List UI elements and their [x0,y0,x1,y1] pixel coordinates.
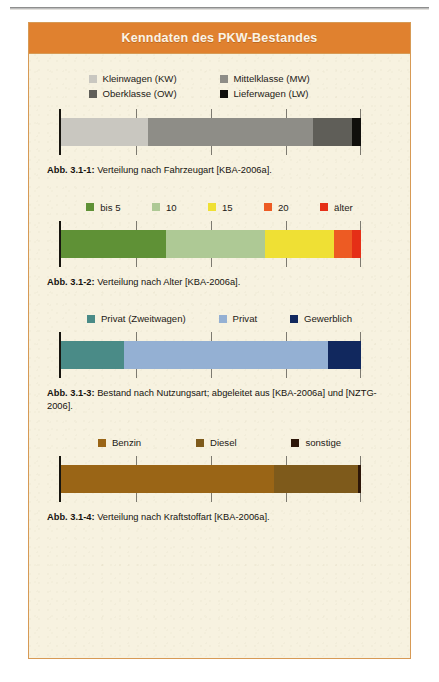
tick [286,221,287,230]
box-title-bar: Kenndaten des PKW-Bestandes [29,23,410,54]
bar-segment-diesel [274,465,358,493]
tick [211,146,212,155]
tick [211,221,212,230]
legend-swatch-icon [219,315,227,323]
bar-segment-bis-5 [61,230,166,258]
legend-label: Gewerblich [304,312,352,325]
legend-abb-3-1-4: Benzin Diesel sonstige [71,436,369,449]
legend-item: älter [320,201,353,214]
tick [136,493,137,502]
tick [360,369,361,378]
legend-swatch-icon [89,75,97,83]
tick [211,493,212,502]
legend-label: Lieferwagen (LW) [234,87,309,100]
tick [136,109,137,118]
legend-item: 10 [152,201,177,214]
legend-label: sonstige [305,436,341,449]
figures-container: Kleinwagen (KW) Mittelklasse (MW) Oberkl… [29,54,410,524]
tick [136,221,137,230]
legend-item: Gewerblich [290,312,352,325]
axis-area [59,332,363,378]
figure-abb-3-1-1: Kleinwagen (KW) Mittelklasse (MW) Oberkl… [45,54,394,177]
stacked-bar [61,465,361,493]
tick [286,146,287,155]
legend-label: Kleinwagen (KW) [103,72,177,85]
stacked-bar [61,341,361,369]
figure-caption: Abb. 3.1-2: Verteilung nach Alter [KBA-2… [45,276,377,289]
legend-swatch-icon [220,90,228,98]
axis-area [59,456,363,502]
legend-swatch-icon [196,439,204,447]
tick [286,369,287,378]
tick [360,493,361,502]
tick [360,456,361,465]
legend-label: 20 [278,201,289,214]
tick [360,258,361,267]
legend-label: 10 [166,201,177,214]
caption-text: Bestand nach Nutzungsart; abgeleitet aus… [47,388,377,411]
legend-swatch-icon [220,75,228,83]
legend-label: älter [334,201,353,214]
plot-abb-3-1-1 [45,109,394,155]
legend-swatch-icon [98,439,106,447]
legend-item: Privat [219,312,258,325]
legend-label: Privat [233,312,258,325]
axis-area [59,221,363,267]
legend-swatch-icon [86,203,94,211]
bar-segment-10 [166,230,265,258]
figure-abb-3-1-2: bis 5 10 15 20 älter [45,177,394,289]
tick [136,332,137,341]
legend-swatch-icon [87,315,95,323]
legend-item: Diesel [196,436,237,449]
caption-label: Abb. 3.1-4: [47,512,95,522]
tick [136,369,137,378]
legend-item: 15 [208,201,233,214]
tick [360,332,361,341]
caption-label: Abb. 3.1-2: [47,277,95,287]
stacked-bar [61,118,361,146]
legend-label: 15 [222,201,233,214]
legend-swatch-icon [152,203,160,211]
legend-abb-3-1-2: bis 5 10 15 20 älter [71,201,369,214]
bar-segment-gewerblich [328,341,361,369]
tick [360,146,361,155]
bar-segment-privat-zweitwagen [61,341,124,369]
legend-item: Privat (Zweitwagen) [87,312,186,325]
plot-abb-3-1-3 [45,332,394,378]
legend-label: Diesel [210,436,237,449]
legend-swatch-icon [290,315,298,323]
figure-caption: Abb. 3.1-1: Verteilung nach Fahrzeugart … [45,164,377,177]
legend-abb-3-1-1: Kleinwagen (KW) Mittelklasse (MW) Oberkl… [89,72,351,102]
tick [286,258,287,267]
page-title: Kenndaten des PKW-Bestandes [121,31,317,45]
bar-segment-sonstige [358,465,361,493]
caption-text: Verteilung nach Kraftstoffart [KBA-2006a… [97,512,269,522]
figure-box: Kenndaten des PKW-Bestandes Kleinwagen (… [28,22,411,659]
legend-label: bis 5 [100,201,120,214]
legend-swatch-icon [320,203,328,211]
bar-segment-lieferwagen [352,118,361,146]
legend-label: Privat (Zweitwagen) [101,312,186,325]
bar-segment-benzin [61,465,274,493]
legend-item: Benzin [98,436,141,449]
legend-swatch-icon [89,90,97,98]
tick [360,221,361,230]
figure-caption: Abb. 3.1-3: Bestand nach Nutzungsart; ab… [45,387,377,412]
legend-label: Benzin [112,436,141,449]
caption-label: Abb. 3.1-1: [47,165,95,175]
figure-caption: Abb. 3.1-4: Verteilung nach Kraftstoffar… [45,511,377,524]
caption-label: Abb. 3.1-3: [47,388,95,398]
legend-swatch-icon [291,439,299,447]
tick [136,258,137,267]
legend-swatch-icon [264,203,272,211]
legend-item: 20 [264,201,289,214]
tick [286,332,287,341]
bar-segment-aelter [352,230,361,258]
page-top-rule [10,7,429,10]
legend-label: Mittelklasse (MW) [234,72,310,85]
tick [211,109,212,118]
tick [286,493,287,502]
legend-swatch-icon [208,203,216,211]
tick [211,369,212,378]
caption-text: Verteilung nach Alter [KBA-2006a]. [97,277,240,287]
